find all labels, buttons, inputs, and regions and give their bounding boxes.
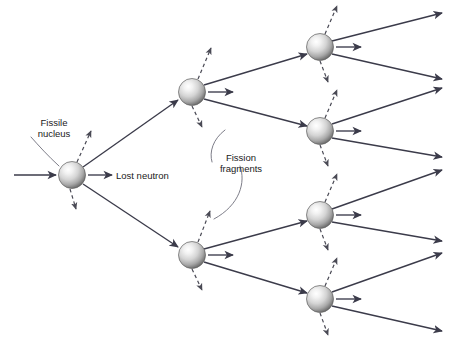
gen2-upper-to-gen3-2: [204, 99, 307, 126]
label-fissile-nucleus: Fissilenucleus: [38, 117, 71, 139]
fragment-gen2-upper-up: [198, 48, 211, 79]
fragment-gen1-up: [77, 131, 91, 162]
nucleus-gen1: [59, 162, 86, 189]
fragment-gen3-3-down: [320, 229, 328, 250]
fragment-gen3-1-up: [325, 6, 337, 34]
gen2-lower-to-gen3-3: [204, 221, 307, 249]
fragment-gen3-4-down: [320, 313, 328, 335]
nucleus-gen3-2: [307, 118, 334, 145]
gen3-4-out-upper: [332, 253, 442, 292]
fragment-gen2-lower-up: [198, 211, 210, 242]
nucleus-gen2-lower: [179, 242, 206, 269]
gen3-1-out-upper: [332, 13, 442, 41]
fragment-gen1-down: [70, 189, 76, 209]
leader-fissile-nucleus: [31, 137, 59, 166]
gen3-3-out-lower: [332, 222, 442, 241]
gen3-2-out-lower: [332, 138, 442, 157]
fission-diagram-canvas: FissilenucleusLost neutronFissionfragmen…: [0, 0, 449, 340]
label-lost-neutron: Lost neutron: [116, 170, 169, 181]
nucleus-gen3-4: [307, 286, 334, 313]
fragment-gen3-2-up: [325, 90, 337, 118]
fission-chain-reaction-diagram: FissilenucleusLost neutronFissionfragmen…: [0, 0, 449, 340]
fission-fragment-group: [70, 6, 337, 335]
gen1-to-gen2-upper: [83, 100, 178, 167]
fragment-gen3-2-down: [320, 145, 328, 166]
label-fission-fragments: Fissionfragments: [220, 152, 262, 174]
nuclei-group: [59, 34, 334, 313]
gen3-2-out-upper: [332, 88, 442, 124]
fragment-gen3-3-up: [325, 174, 337, 202]
gen3-1-out-lower: [332, 54, 442, 79]
gen2-lower-to-gen3-4: [204, 262, 307, 293]
fragment-gen3-4-up: [325, 258, 337, 286]
nucleus-gen3-3: [307, 202, 334, 229]
nucleus-gen3-1: [307, 34, 334, 61]
gen3-4-out-lower: [332, 306, 442, 331]
fragment-gen2-lower-down: [192, 269, 202, 290]
fragment-gen3-1-down: [320, 61, 328, 82]
gen3-3-out-upper: [332, 170, 442, 209]
fragment-gen2-upper-down: [192, 106, 202, 127]
gen1-to-gen2-lower: [83, 184, 178, 247]
leader-fission-upper: [211, 130, 225, 162]
nucleus-gen2-upper: [179, 79, 206, 106]
gen2-upper-to-gen3-1: [204, 54, 307, 85]
